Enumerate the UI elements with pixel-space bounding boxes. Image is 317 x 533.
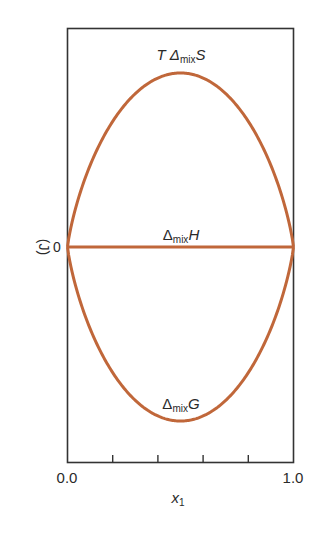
curve-deltamixg bbox=[68, 247, 294, 421]
x-axis-ticks bbox=[113, 455, 249, 463]
y-zero-label: 0 bbox=[53, 239, 61, 255]
y-axis-unit-label: (J) bbox=[36, 239, 52, 255]
x-min-label: 0.0 bbox=[57, 469, 78, 486]
curve-tdeltamixs bbox=[68, 73, 294, 247]
curves bbox=[68, 73, 294, 421]
series-label-deltamixh: ΔmixH bbox=[163, 226, 200, 245]
x-max-label: 1.0 bbox=[283, 469, 304, 486]
x-axis-title: x1 bbox=[170, 489, 185, 508]
mixing-functions-chart: T ΔmixS ΔmixH ΔmixG 0 (J) 0.0 1.0 x1 bbox=[0, 0, 317, 533]
series-label-deltamixg: ΔmixG bbox=[162, 395, 200, 414]
series-label-tdeltamixs: T ΔmixS bbox=[157, 46, 206, 65]
